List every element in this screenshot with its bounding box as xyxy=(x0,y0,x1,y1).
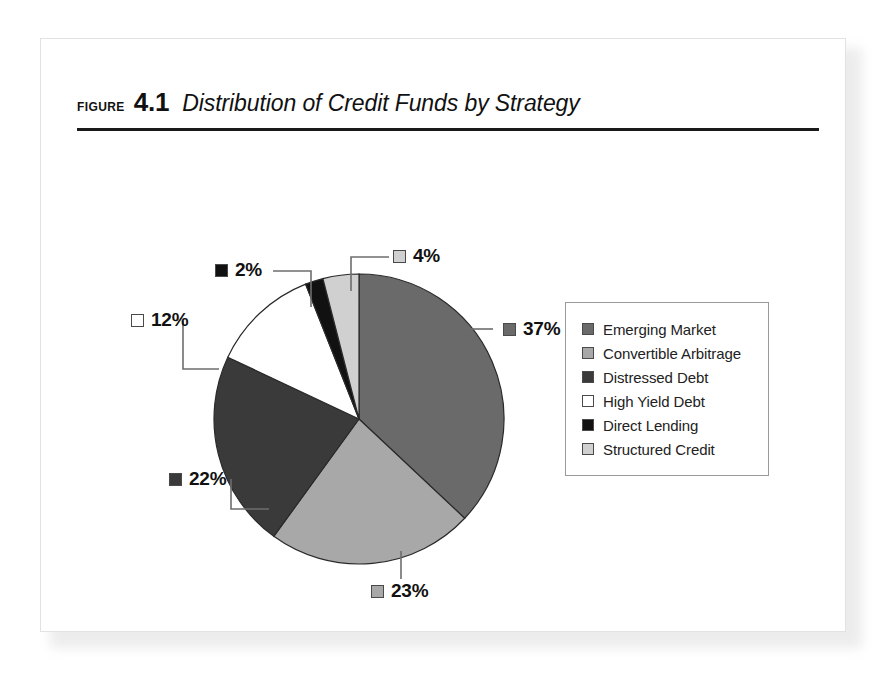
legend-swatch-icon xyxy=(582,395,594,407)
figure-card: FIGURE4.1Distribution of Credit Funds by… xyxy=(40,38,846,632)
legend-item: Direct Lending xyxy=(582,413,756,437)
legend-swatch-icon xyxy=(582,347,594,359)
figure-page: FIGURE4.1Distribution of Credit Funds by… xyxy=(0,0,896,680)
legend-swatch-icon xyxy=(582,443,594,455)
legend-item-label: Convertible Arbitrage xyxy=(603,345,741,362)
callout-swatch-37 xyxy=(503,323,516,336)
pie-chart: 37% 23% 22% 12% 2% xyxy=(41,39,847,633)
callout-37: 37% xyxy=(503,318,560,340)
callout-value-4: 4% xyxy=(413,245,440,267)
callout-swatch-4 xyxy=(393,250,406,263)
legend-item-label: Emerging Market xyxy=(603,321,716,338)
callout-2: 2% xyxy=(215,259,262,281)
callout-22: 22% xyxy=(169,468,226,490)
callout-swatch-2 xyxy=(215,264,228,277)
callout-value-12: 12% xyxy=(151,309,188,331)
pie-slice-group xyxy=(214,274,504,564)
callout-12: 12% xyxy=(131,309,188,331)
callout-value-23: 23% xyxy=(391,580,428,602)
callout-value-22: 22% xyxy=(189,468,226,490)
chart-legend: Emerging MarketConvertible ArbitrageDist… xyxy=(565,302,769,476)
legend-swatch-icon xyxy=(582,323,594,335)
legend-item-label: Distressed Debt xyxy=(603,369,708,386)
legend-swatch-icon xyxy=(582,371,594,383)
legend-item: Emerging Market xyxy=(582,317,756,341)
callout-4: 4% xyxy=(393,245,440,267)
callout-swatch-22 xyxy=(169,473,182,486)
legend-item-label: Structured Credit xyxy=(603,441,715,458)
legend-item-label: High Yield Debt xyxy=(603,393,705,410)
legend-item: Structured Credit xyxy=(582,437,756,461)
legend-item-label: Direct Lending xyxy=(603,417,698,434)
legend-item: High Yield Debt xyxy=(582,389,756,413)
legend-item: Distressed Debt xyxy=(582,365,756,389)
callout-swatch-12 xyxy=(131,314,144,327)
legend-swatch-icon xyxy=(582,419,594,431)
callout-value-2: 2% xyxy=(235,259,262,281)
legend-item: Convertible Arbitrage xyxy=(582,341,756,365)
callout-value-37: 37% xyxy=(523,318,560,340)
callout-23: 23% xyxy=(371,580,428,602)
callout-swatch-23 xyxy=(371,585,384,598)
